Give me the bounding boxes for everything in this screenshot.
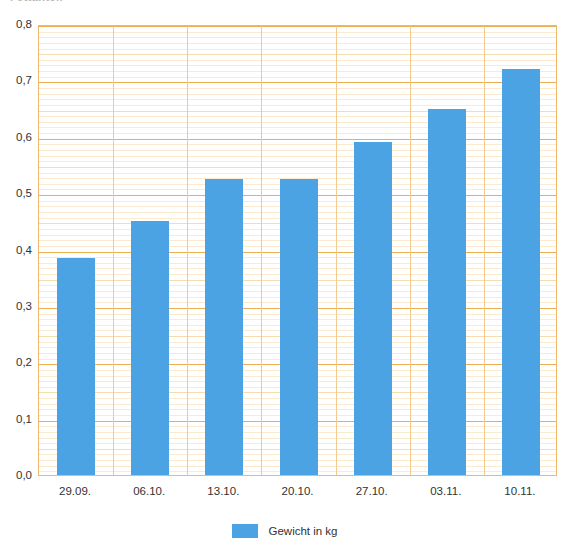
legend-label-gewicht: Gewicht in kg bbox=[268, 524, 337, 538]
y-tick-label: 0,4 bbox=[0, 245, 32, 257]
x-tick-label: 29.09. bbox=[59, 484, 91, 498]
bar-chart: Fettanteil 0,00,10,20,30,40,50,60,70,8 2… bbox=[0, 0, 570, 556]
y-tick-label: 0,6 bbox=[0, 132, 32, 144]
bar-2710[interactable] bbox=[354, 142, 392, 475]
chart-legend: Gewicht in kg bbox=[0, 524, 570, 538]
x-tick-label: 03.11. bbox=[430, 484, 461, 498]
chart-title: Fettanteil bbox=[10, 0, 63, 3]
legend-swatch-gewicht bbox=[232, 524, 258, 538]
x-tick-label: 27.10. bbox=[356, 484, 388, 498]
y-tick-label: 0,7 bbox=[0, 76, 32, 88]
y-tick-label: 0,5 bbox=[0, 188, 32, 200]
bar-1011[interactable] bbox=[502, 69, 540, 475]
x-tick-label: 10.11. bbox=[504, 484, 535, 498]
y-tick-label: 0,3 bbox=[0, 301, 32, 313]
bar-1310[interactable] bbox=[205, 179, 243, 475]
bar-2909[interactable] bbox=[57, 258, 95, 475]
plot-area bbox=[38, 25, 557, 476]
x-tick-label: 06.10. bbox=[133, 484, 165, 498]
y-axis: 0,00,10,20,30,40,50,60,70,8 bbox=[0, 25, 32, 476]
y-tick-label: 0,0 bbox=[0, 470, 32, 482]
bar-0610[interactable] bbox=[131, 221, 169, 475]
x-axis: 29.09.06.10.13.10.20.10.27.10.03.11.10.1… bbox=[38, 484, 557, 504]
bar-0311[interactable] bbox=[428, 109, 466, 475]
bars-layer bbox=[39, 26, 556, 475]
x-tick-label: 13.10. bbox=[207, 484, 239, 498]
x-tick-label: 20.10. bbox=[282, 484, 314, 498]
y-tick-label: 0,1 bbox=[0, 414, 32, 426]
y-tick-label: 0,8 bbox=[0, 19, 32, 31]
bar-2010[interactable] bbox=[280, 179, 318, 475]
y-tick-label: 0,2 bbox=[0, 358, 32, 370]
